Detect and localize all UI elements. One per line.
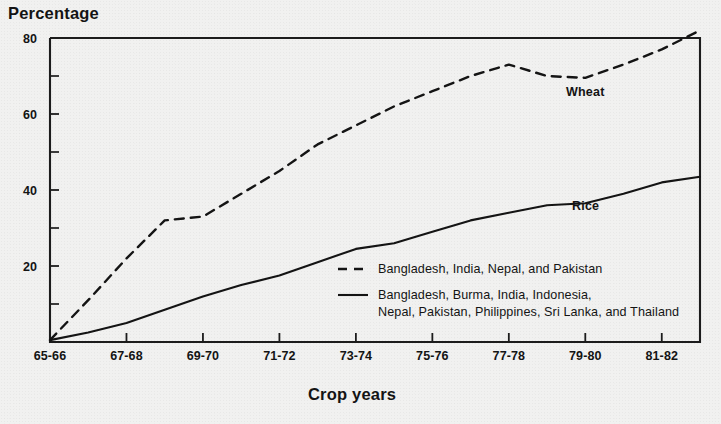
series-label-wheat: Wheat <box>566 85 605 99</box>
legend-label: Nepal, Pakistan, Philippines, Sri Lanka,… <box>378 305 679 319</box>
x-axis-title: Crop years <box>308 385 396 403</box>
y-tick-label: 20 <box>23 260 37 274</box>
x-tick-label: 67-68 <box>110 349 142 363</box>
y-axis-ticks: 20406080 <box>23 32 59 305</box>
y-tick-label: 80 <box>23 32 37 46</box>
legend-label: Bangladesh, India, Nepal, and Pakistan <box>378 262 602 276</box>
x-tick-label: 65-66 <box>34 349 66 363</box>
y-tick-label: 40 <box>23 184 37 198</box>
chart-svg: Percentage 20406080 65-6667-6869-7071-72… <box>0 0 721 424</box>
y-axis-title: Percentage <box>8 4 99 22</box>
series-label-rice: Rice <box>572 199 599 213</box>
chart-legend: Bangladesh, India, Nepal, and PakistanBa… <box>338 262 679 319</box>
legend-label: Bangladesh, Burma, India, Indonesia, <box>378 288 592 302</box>
x-tick-label: 73-74 <box>340 349 372 363</box>
data-series-group <box>50 30 700 340</box>
chart-figure: Percentage 20406080 65-6667-6869-7071-72… <box>0 0 721 424</box>
x-tick-label: 79-80 <box>569 349 601 363</box>
plot-frame <box>50 38 700 342</box>
y-tick-label: 60 <box>23 108 37 122</box>
series-path-wheat <box>50 30 700 340</box>
x-tick-label: 77-78 <box>493 349 525 363</box>
x-tick-label: 71-72 <box>263 349 295 363</box>
x-tick-label: 69-70 <box>187 349 219 363</box>
x-axis-ticks: 65-6667-6869-7071-7273-7475-7677-7879-80… <box>34 333 678 363</box>
x-tick-label: 75-76 <box>416 349 448 363</box>
x-tick-label: 81-82 <box>646 349 678 363</box>
